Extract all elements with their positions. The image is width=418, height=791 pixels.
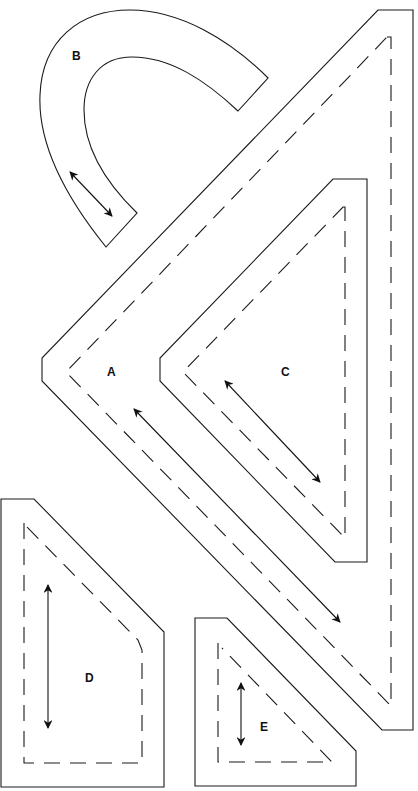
piece-b-cut-line [40, 10, 268, 247]
piece-a-label: A [107, 365, 116, 379]
piece-d-label: D [85, 671, 94, 685]
piece-c-cut-line [160, 179, 367, 562]
piece-e-label: E [260, 720, 268, 734]
piece-b: B [40, 10, 268, 247]
piece-c: C [160, 179, 367, 562]
piece-a: A [42, 10, 413, 730]
piece-b-label: B [72, 49, 81, 63]
pattern-sheet: B A C D E [0, 0, 418, 791]
piece-b-grainline-icon [70, 172, 112, 216]
piece-c-grainline-icon [225, 381, 320, 482]
piece-e: E [195, 618, 356, 786]
piece-a-grainline-icon [134, 409, 340, 622]
piece-a-cut-line [42, 10, 413, 730]
piece-d: D [1, 499, 164, 787]
piece-c-label: C [281, 365, 290, 379]
piece-e-cut-line [195, 618, 356, 786]
piece-d-seam-line [24, 523, 142, 763]
